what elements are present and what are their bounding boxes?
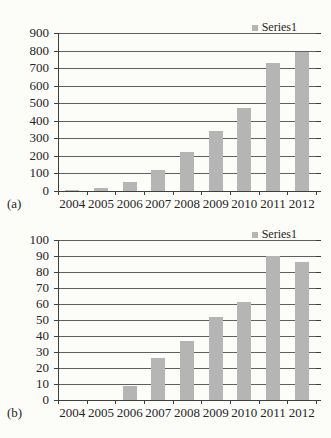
y-tick-right: [316, 33, 321, 34]
x-axis-tick-label: 2012: [287, 405, 316, 420]
bar-2012: [295, 262, 309, 400]
y-tick-right: [316, 86, 321, 87]
x-tick: [58, 191, 59, 195]
gridline: [58, 400, 316, 401]
x-axis-tick-label: 2010: [230, 405, 259, 420]
y-tick: [54, 384, 58, 385]
x-axis-tick-label: 2009: [201, 196, 230, 211]
panel-label-b: (b): [7, 405, 22, 421]
y-tick: [54, 103, 58, 104]
y-tick: [54, 304, 58, 305]
y-tick-right: [316, 352, 321, 353]
x-tick: [173, 400, 174, 404]
bar-2005: [94, 188, 108, 191]
y-tick-right: [316, 156, 321, 157]
y-axis-tick-label: 20: [0, 360, 49, 375]
x-tick: [316, 400, 317, 404]
y-tick: [54, 33, 58, 34]
x-tick: [287, 400, 288, 404]
y-tick-right: [316, 256, 321, 257]
x-tick: [115, 400, 116, 404]
y-axis-tick-label: 30: [0, 344, 49, 359]
bar-2011: [266, 63, 280, 191]
plot-area: [58, 33, 316, 191]
y-tick: [54, 272, 58, 273]
x-axis-tick-label: 2009: [201, 405, 230, 420]
x-axis-tick-label: 2005: [87, 405, 116, 420]
y-tick: [54, 256, 58, 257]
x-tick: [230, 400, 231, 404]
y-tick-right: [316, 384, 321, 385]
y-tick: [54, 352, 58, 353]
x-tick: [201, 400, 202, 404]
y-axis-tick-label: 40: [0, 328, 49, 343]
y-tick: [54, 336, 58, 337]
y-axis-tick-label: 100: [0, 232, 49, 247]
y-tick-right: [316, 68, 321, 69]
x-axis-tick-label: 2008: [173, 196, 202, 211]
y-axis-tick-label: 50: [0, 312, 49, 327]
gridline: [58, 51, 316, 52]
x-axis-tick-label: 2010: [230, 196, 259, 211]
bar-2008: [180, 341, 194, 400]
y-tick-right: [316, 103, 321, 104]
x-axis-tick-label: 2004: [58, 405, 87, 420]
gridline: [58, 33, 316, 34]
x-tick: [230, 191, 231, 195]
x-tick: [173, 191, 174, 195]
bar-2004: [65, 190, 79, 191]
x-axis-tick-label: 2006: [115, 196, 144, 211]
bar-2012: [295, 52, 309, 191]
bar-2010: [237, 302, 251, 400]
y-tick: [54, 121, 58, 122]
legend-marker-icon: [252, 25, 258, 31]
x-tick: [144, 191, 145, 195]
x-axis-tick-label: 2011: [259, 405, 288, 420]
gridline: [58, 240, 316, 241]
y-tick: [54, 320, 58, 321]
bar-2006: [123, 386, 137, 400]
y-axis-tick-label: 80: [0, 264, 49, 279]
y-axis-tick-label: 0: [0, 392, 49, 407]
x-axis-tick-label: 2011: [259, 196, 288, 211]
y-axis-tick-label: 800: [0, 43, 49, 58]
bar-2011: [266, 256, 280, 400]
y-tick: [54, 240, 58, 241]
y-tick: [54, 368, 58, 369]
chart-panel-a: Series1 (a) 9008007006005004003002001000…: [0, 0, 331, 219]
y-axis-tick-label: 100: [0, 165, 49, 180]
y-axis-tick-label: 70: [0, 280, 49, 295]
y-axis-tick-label: 10: [0, 376, 49, 391]
y-tick: [54, 51, 58, 52]
x-tick: [58, 400, 59, 404]
y-tick-right: [316, 51, 321, 52]
y-axis-tick-label: 400: [0, 113, 49, 128]
x-axis-tick-label: 2004: [58, 196, 87, 211]
x-tick: [287, 191, 288, 195]
x-tick: [316, 191, 317, 195]
y-axis-line: [58, 33, 59, 191]
y-axis-tick-label: 200: [0, 148, 49, 163]
y-tick-right: [316, 173, 321, 174]
y-tick: [54, 173, 58, 174]
y-tick: [54, 156, 58, 157]
y-axis-tick-label: 600: [0, 78, 49, 93]
bar-2008: [180, 152, 194, 192]
chart-panel-b: Series1 (b) 1009080706050403020100200420…: [0, 219, 331, 438]
panel-label-a: (a): [7, 196, 21, 212]
y-tick-right: [316, 272, 321, 273]
y-tick-right: [316, 240, 321, 241]
y-axis-tick-label: 300: [0, 130, 49, 145]
x-tick: [259, 191, 260, 195]
y-tick: [54, 138, 58, 139]
y-tick-right: [316, 368, 321, 369]
y-tick-right: [316, 138, 321, 139]
x-tick: [201, 191, 202, 195]
y-tick-right: [316, 304, 321, 305]
x-tick: [87, 400, 88, 404]
bar-2006: [123, 182, 137, 191]
bar-2009: [209, 131, 223, 191]
y-axis-tick-label: 90: [0, 248, 49, 263]
y-tick-right: [316, 121, 321, 122]
y-axis-tick-label: 700: [0, 60, 49, 75]
